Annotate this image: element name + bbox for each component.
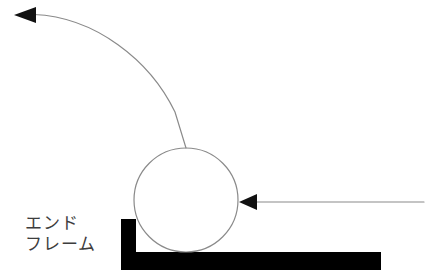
technical-diagram: エンド フレーム: [0, 0, 434, 278]
end-frame-horizontal-leg: [121, 252, 381, 270]
curved-arrow-head-icon: [14, 7, 36, 23]
end-frame-label-line-2: フレーム: [25, 234, 96, 255]
straight-arrow-head-icon: [239, 194, 257, 210]
curved-arrow-up-left: [14, 7, 186, 148]
straight-arrow-left: [239, 194, 424, 210]
end-frame-label-line-1: エンド: [25, 213, 96, 234]
curved-arrow-shaft: [34, 15, 186, 149]
end-frame-label: エンド フレーム: [25, 213, 96, 255]
roller-circle: [134, 148, 238, 252]
